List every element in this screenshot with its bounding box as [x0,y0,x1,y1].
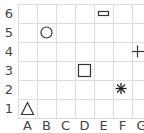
row-label-4: 4 [3,42,15,61]
col-label-a: A [18,119,37,133]
col-label-d: D [75,119,94,133]
circle-icon [37,23,56,42]
square-icon [75,61,94,80]
plus-icon [132,42,144,61]
row-label-1: 1 [3,99,15,118]
col-label-f: F [113,119,132,133]
col-label-c: C [56,119,75,133]
row-label-3: 3 [3,61,15,80]
grid-line [18,42,144,43]
asterisk-icon [113,80,132,99]
triangle-icon [18,99,37,118]
row-label-6: 6 [3,4,15,23]
rectangle-icon [94,4,113,23]
col-label-g: G [132,119,144,133]
row-label-2: 2 [3,80,15,99]
row-label-5: 5 [3,23,15,42]
grid-line [18,4,144,5]
col-label-b: B [37,119,56,133]
col-label-e: E [94,119,113,133]
